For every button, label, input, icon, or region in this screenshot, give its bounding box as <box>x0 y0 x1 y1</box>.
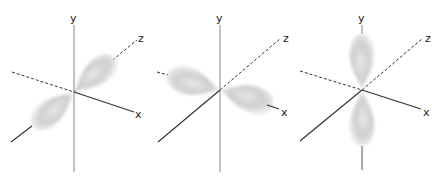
panel-px: y x z <box>157 12 289 172</box>
panel-pz: y x z <box>11 12 144 172</box>
x-axis-back <box>12 72 74 92</box>
x-axis-back <box>300 71 362 90</box>
z-axis-front <box>11 126 32 142</box>
x-axis-back <box>157 72 168 75</box>
orbital-lobe-pos <box>349 34 374 90</box>
orbital-lobe-neg <box>163 61 223 103</box>
z-axis-label: z <box>138 32 144 45</box>
x-axis-label: x <box>135 108 142 121</box>
z-axis-label: z <box>425 32 431 45</box>
y-axis-label: y <box>216 12 223 25</box>
z-axis-label: z <box>283 32 289 45</box>
z-axis-front <box>158 90 220 142</box>
z-axis-back <box>220 38 281 90</box>
y-axis-label: y <box>358 12 365 25</box>
x-axis-label: x <box>423 106 430 119</box>
orbital-diagram: y x z y x z y x z <box>0 0 446 180</box>
orbital-lobe-neg <box>349 90 374 146</box>
orbital-lobe-pos <box>216 77 276 119</box>
x-axis-label: x <box>281 106 288 119</box>
x-axis-front <box>74 92 134 112</box>
y-axis-label: y <box>70 12 77 25</box>
x-axis-front <box>362 90 421 109</box>
panel-py: y x z <box>300 12 431 170</box>
